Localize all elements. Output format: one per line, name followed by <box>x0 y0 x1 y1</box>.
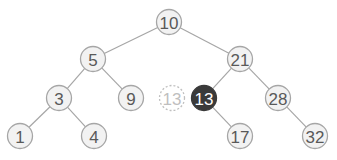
edge-21-13 <box>212 68 231 89</box>
edge-5-9 <box>102 68 123 89</box>
node-label: 21 <box>231 51 250 70</box>
tree-node-n13: 13 <box>192 86 217 111</box>
node-label: 13 <box>195 90 214 109</box>
node-label: 13 <box>163 90 182 109</box>
edge-3-4 <box>67 107 85 127</box>
edges-layer <box>29 27 306 127</box>
tree-node-n4: 4 <box>82 124 107 149</box>
tree-node-n28: 28 <box>266 86 291 111</box>
edge-28-32 <box>287 107 307 127</box>
nodes-layer: 1052139131328141732 <box>8 10 328 149</box>
node-label: 3 <box>54 90 63 109</box>
edge-5-3 <box>67 68 85 88</box>
node-label: 5 <box>88 51 97 70</box>
node-label: 4 <box>89 128 98 147</box>
node-label: 28 <box>269 90 288 109</box>
node-label: 10 <box>160 14 179 33</box>
edge-21-28 <box>249 68 270 89</box>
edge-10-5 <box>104 27 158 53</box>
edge-13-17 <box>213 107 232 127</box>
node-label: 1 <box>15 128 24 147</box>
node-label: 17 <box>231 128 250 147</box>
node-label: 9 <box>126 90 135 109</box>
tree-node-n21: 21 <box>228 47 253 72</box>
tree-node-n9: 9 <box>119 86 144 111</box>
tree-node-n32: 32 <box>303 124 328 149</box>
tree-node-n13ghost: 13 <box>160 86 185 111</box>
tree-diagram: 1052139131328141732 <box>0 0 337 160</box>
tree-node-n1: 1 <box>8 124 33 149</box>
edge-3-1 <box>29 107 50 128</box>
tree-node-n10: 10 <box>157 10 182 35</box>
node-label: 32 <box>306 128 325 147</box>
tree-node-n17: 17 <box>228 124 253 149</box>
tree-node-n5: 5 <box>81 47 106 72</box>
tree-node-n3: 3 <box>47 86 72 111</box>
edge-10-21 <box>180 28 229 53</box>
